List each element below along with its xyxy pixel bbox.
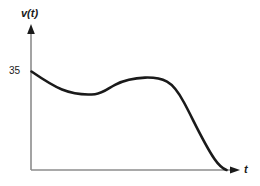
y-tick-label-35: 35 bbox=[9, 66, 20, 76]
plot-area bbox=[0, 0, 260, 186]
x-axis-label: t bbox=[244, 164, 248, 175]
velocity-graph-figure: v(t) t 35 bbox=[0, 0, 260, 186]
y-axis-label: v(t) bbox=[21, 8, 38, 19]
x-axis-arrow-icon bbox=[230, 166, 240, 173]
velocity-curve bbox=[32, 72, 227, 171]
y-axis-arrow-icon bbox=[27, 24, 35, 34]
